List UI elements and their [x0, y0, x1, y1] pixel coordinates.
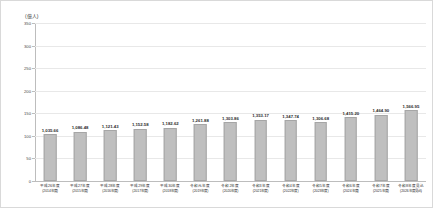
x-tick-label-year: (2023年度): [306, 189, 336, 194]
x-tick-label-year: (2019年度): [185, 189, 215, 194]
y-tick-label: 0: [5, 179, 31, 184]
x-tick-label-year: (2024年度): [336, 189, 366, 194]
x-tick-label-era: 令和4年度: [282, 184, 300, 188]
x-tick-label-era: 令和7年度: [372, 184, 390, 188]
bar[interactable]: [74, 132, 87, 181]
bar-slot: 1,464.90: [366, 23, 396, 181]
x-tick-label: 平成26年度(2014年度): [35, 184, 65, 195]
bar-value-label: 1,261.88: [192, 118, 209, 123]
bar[interactable]: [314, 122, 327, 181]
bar[interactable]: [194, 124, 207, 181]
bar-chart-figure: (億人) 050100150200250300350 1,035.661,086…: [0, 0, 433, 208]
bar-value-label: 1,035.66: [42, 128, 59, 133]
x-tick-label-year: (2025年度): [366, 189, 396, 194]
x-tick-label-era: 平成29年度: [130, 184, 150, 188]
bar-value-label: 1,121.43: [102, 124, 119, 129]
bar-value-label: 1,566.95: [403, 104, 420, 109]
bar-slot: 1,415.20: [336, 23, 366, 181]
y-tick-label: 300: [5, 43, 31, 48]
y-tick-label: 150: [5, 111, 31, 116]
x-tick-label-era: 平成30年度: [160, 184, 180, 188]
bar-slot: 1,353.17: [246, 23, 276, 181]
bar-slot: 1,035.66: [35, 23, 65, 181]
bar-slot: 1,306.68: [306, 23, 336, 181]
x-tick-label-era: 令和5年度: [312, 184, 330, 188]
bar-value-label: 1,415.20: [342, 111, 359, 116]
y-tick-label: 350: [5, 21, 31, 26]
x-tick-label-year: (2022年度): [276, 189, 306, 194]
x-tick-label: 平成27年度(2015年度): [65, 184, 95, 195]
bar[interactable]: [134, 129, 147, 181]
x-tick-label-era: 令和3年度: [252, 184, 270, 188]
y-tick-label: 100: [5, 133, 31, 138]
x-tick-label: 令和7年度(2025年度): [366, 184, 396, 195]
x-tick-label: 令和5年度(2023年度): [306, 184, 336, 195]
bar-slot: 1,261.88: [185, 23, 215, 181]
bar[interactable]: [104, 130, 117, 181]
bar[interactable]: [254, 120, 267, 181]
x-tick-label-year: (2016年度): [95, 189, 125, 194]
x-tick-label-year: (2026年度見込): [396, 189, 426, 194]
bar-slot: 1,303.86: [215, 23, 245, 181]
x-tick-label: 令和2年度(2020年度): [215, 184, 245, 195]
bar[interactable]: [375, 115, 388, 181]
x-tick-label-year: (2020年度): [215, 189, 245, 194]
x-tick-label-era: 令和元年度: [190, 184, 210, 188]
bar-slot: 1,121.43: [95, 23, 125, 181]
x-tick-label-year: (2021年度): [246, 189, 276, 194]
bar-value-label: 1,306.68: [312, 116, 329, 121]
bar[interactable]: [44, 134, 57, 181]
bar[interactable]: [284, 120, 297, 181]
bar-slot: 1,182.62: [155, 23, 185, 181]
x-tick-label-era: 平成27年度: [70, 184, 90, 188]
bar[interactable]: [344, 117, 357, 181]
x-tick-label: 令和6年度(2024年度): [336, 184, 366, 195]
x-tick-label-era: 令和6年度: [342, 184, 360, 188]
bar-slot: 1,086.48: [65, 23, 95, 181]
bar-slot: 1,566.95: [396, 23, 426, 181]
bar-slot: 1,347.74: [276, 23, 306, 181]
x-tick-label-era: 平成26年度: [40, 184, 60, 188]
gridline: [35, 181, 426, 182]
x-tick-label-year: (2014年度): [35, 189, 65, 194]
bar-value-label: 1,353.17: [252, 113, 269, 118]
bar-slot: 1,152.58: [125, 23, 155, 181]
x-tick-label-era: 令和2年度: [221, 184, 239, 188]
x-tick-label-year: (2017年度): [125, 189, 155, 194]
x-tick-label: 平成28年度(2016年度): [95, 184, 125, 195]
bar[interactable]: [224, 122, 237, 181]
x-tick-label-era: 令和8年度見込: [398, 184, 424, 188]
x-tick-label: 平成29年度(2017年度): [125, 184, 155, 195]
bar-value-label: 1,152.58: [132, 122, 149, 127]
y-tick-label: 50: [5, 156, 31, 161]
y-axis-unit-label: (億人): [25, 12, 38, 19]
bar[interactable]: [405, 110, 418, 181]
bar-value-label: 1,086.48: [72, 125, 89, 130]
y-tick-label: 200: [5, 88, 31, 93]
bar-value-label: 1,303.86: [222, 116, 239, 121]
x-tick-label-year: (2018年度): [155, 189, 185, 194]
bar[interactable]: [164, 128, 177, 181]
y-tick-label: 250: [5, 66, 31, 71]
plot-area: 1,035.661,086.481,121.431,152.581,182.62…: [35, 23, 426, 181]
bar-value-label: 1,182.62: [162, 121, 179, 126]
x-tick-label: 令和4年度(2022年度): [276, 184, 306, 195]
x-tick-label-year: (2015年度): [65, 189, 95, 194]
bar-value-label: 1,347.74: [282, 114, 299, 119]
bar-value-label: 1,464.90: [373, 108, 390, 113]
x-axis-labels: 平成26年度(2014年度)平成27年度(2015年度)平成28年度(2016年…: [35, 184, 426, 208]
x-tick-label: 平成30年度(2018年度): [155, 184, 185, 195]
x-tick-label: 令和3年度(2021年度): [246, 184, 276, 195]
x-tick-label-era: 平成28年度: [100, 184, 120, 188]
bar-series: 1,035.661,086.481,121.431,152.581,182.62…: [35, 23, 426, 181]
x-tick-label: 令和元年度(2019年度): [185, 184, 215, 195]
x-tick-label: 令和8年度見込(2026年度見込): [396, 184, 426, 195]
